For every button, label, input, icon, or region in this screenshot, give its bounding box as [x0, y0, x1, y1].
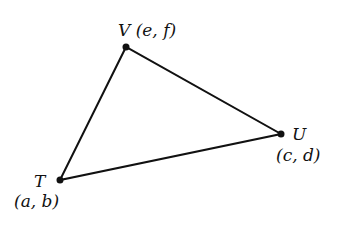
- vertex-u-coords: (c, d): [276, 145, 320, 165]
- vertex-u-point: [278, 131, 285, 138]
- vertex-v-point: [123, 44, 130, 51]
- vertex-t-name: T: [34, 171, 47, 191]
- vertex-t-point: [57, 177, 64, 184]
- triangle-tuv: [60, 47, 281, 180]
- triangle-diagram: V (e, f) U (c, d) T (a, b): [0, 0, 339, 227]
- vertex-t-coords: (a, b): [14, 191, 59, 211]
- vertex-u-name: U: [292, 124, 307, 144]
- vertex-v-label: V (e, f): [118, 20, 176, 40]
